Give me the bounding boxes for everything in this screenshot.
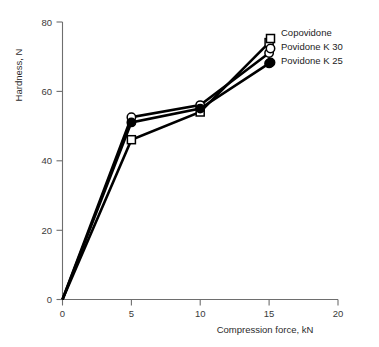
- legend-label-copovidone: Copovidone: [281, 27, 332, 38]
- series-line-povidone-k25: [63, 63, 270, 299]
- data-point-povidone-k25-5: [127, 118, 135, 126]
- x-axis-ticks: 0 5 10 15 20: [60, 300, 343, 320]
- series-line-copovidone: [63, 43, 270, 300]
- y-tick-label-4: 80: [41, 17, 52, 28]
- chart-legend: Copovidone Povidone K 30 Povidone K 25: [266, 27, 342, 67]
- legend-item-povidone-k30: Povidone K 30: [266, 41, 342, 53]
- legend-label-povidone-k25: Povidone K 25: [281, 55, 343, 66]
- line-chart: 0 20 40 60 80 0 5 10 15 20 Compression f…: [0, 0, 379, 347]
- legend-label-povidone-k30: Povidone K 30: [281, 41, 343, 52]
- data-point-povidone-k25-10: [196, 104, 204, 112]
- series-markers-copovidone: [127, 39, 273, 144]
- y-tick-label-1: 20: [41, 225, 52, 236]
- legend-filled-circle-icon: [266, 58, 274, 66]
- series-line-povidone-k30: [63, 53, 270, 300]
- chart-figure: 0 20 40 60 80 0 5 10 15 20 Compression f…: [0, 0, 379, 347]
- x-tick-label-1: 5: [129, 308, 134, 319]
- x-tick-label-4: 20: [333, 308, 344, 319]
- legend-open-square-icon: [267, 35, 275, 43]
- data-point-copovidone-5: [127, 136, 135, 144]
- x-axis-title: Compression force, kN: [217, 324, 314, 335]
- y-axis-ticks: 0 20 40 60 80: [41, 17, 62, 306]
- y-tick-label-2: 40: [41, 155, 52, 166]
- x-tick-label-3: 15: [264, 308, 275, 319]
- x-tick-label-0: 0: [60, 308, 65, 319]
- legend-item-povidone-k25: Povidone K 25: [266, 55, 342, 67]
- legend-open-circle-icon: [266, 44, 274, 52]
- y-axis-title: Hardness, N: [13, 48, 24, 101]
- y-tick-label-3: 60: [41, 86, 52, 97]
- x-tick-label-2: 10: [195, 308, 206, 319]
- series-lines-group: [63, 43, 270, 300]
- y-tick-label-0: 0: [47, 294, 52, 305]
